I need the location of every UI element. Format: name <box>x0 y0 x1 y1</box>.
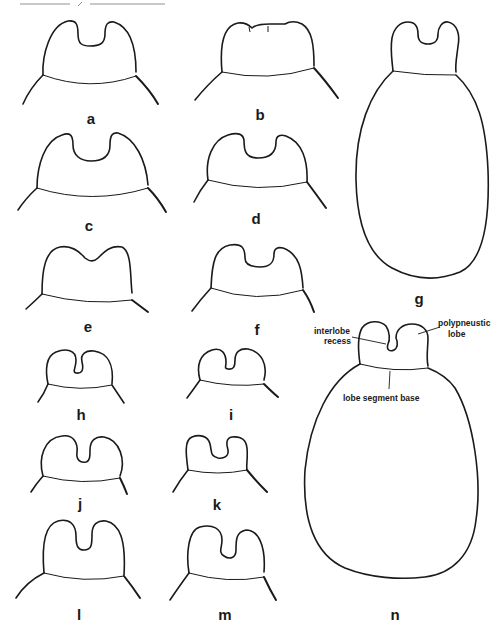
panel-label-m: m <box>218 606 231 623</box>
panel-b: b <box>195 22 338 123</box>
cropped-header-fragment <box>20 2 165 6</box>
panel-label-j: j <box>77 495 82 512</box>
panel-l: l <box>16 520 140 623</box>
panel-label-g: g <box>414 290 423 307</box>
panel-label-f: f <box>255 321 261 338</box>
panel-label-i: i <box>229 406 233 423</box>
panel-label-h: h <box>76 406 85 423</box>
annotation-polypneustic: polypneustic <box>438 318 491 328</box>
panel-label-a: a <box>87 110 96 127</box>
panel-e: e <box>26 247 148 335</box>
panel-n: interlobe recess polypneustic lobe lobe … <box>305 318 491 623</box>
panel-k: k <box>173 436 267 513</box>
panel-f: f <box>192 245 314 338</box>
panel-d: d <box>194 134 326 227</box>
leader-polypneustic-lobe <box>418 327 440 334</box>
panel-label-b: b <box>255 106 264 123</box>
panel-label-k: k <box>213 496 222 513</box>
annotation-lobe-segment-base: lobe segment base <box>343 393 420 403</box>
panel-label-l: l <box>77 606 81 623</box>
panel-label-c: c <box>85 217 93 234</box>
panel-label-d: d <box>251 210 260 227</box>
panel-i: i <box>187 349 278 423</box>
annotation-recess: recess <box>324 336 351 346</box>
panel-label-e: e <box>84 318 92 335</box>
panel-m: m <box>170 526 276 623</box>
panel-h: h <box>38 350 124 423</box>
leader-lobe-segment-base <box>389 371 390 389</box>
panel-j: j <box>31 436 127 512</box>
panel-label-n: n <box>390 606 399 623</box>
panel-c: c <box>18 133 166 234</box>
panel-g: g <box>356 22 488 307</box>
leader-interlobe-recess <box>352 337 386 344</box>
lobe-shape-figure: a b c d e f <box>0 0 501 629</box>
annotation-interlobe: interlobe <box>314 326 350 336</box>
annotation-lobe: lobe <box>448 329 466 339</box>
panel-a: a <box>23 21 158 127</box>
